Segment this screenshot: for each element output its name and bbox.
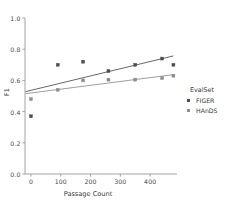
legend-title: EvalSet: [190, 86, 226, 94]
x-tick-label: 200: [85, 178, 97, 185]
data-points: [29, 57, 174, 118]
y-tick-label: 0.6: [10, 77, 20, 84]
legend-item-figer[interactable]: FIGER: [184, 97, 226, 104]
trend-lines: [26, 56, 174, 94]
y-axis-title: F1: [3, 88, 11, 96]
y-tick-label: 0.0: [10, 171, 20, 178]
y-tick-label: 0.8: [10, 46, 20, 53]
x-tick-label: 400: [144, 178, 156, 185]
x-tick-label: 100: [55, 178, 67, 185]
chart-legend: EvalSet FIGERHAnDS: [184, 86, 226, 117]
legend-item-label: HAnDS: [196, 107, 218, 114]
x-tick-label: 0: [29, 178, 33, 185]
y-tick-label: 0.4: [10, 108, 20, 115]
legend-marker-icon: [184, 109, 193, 112]
legend-entries: FIGERHAnDS: [184, 97, 226, 114]
legend-item-label: FIGER: [196, 97, 214, 104]
y-tick-label: 0.2: [10, 139, 20, 146]
x-axis-title: Passage Count: [64, 190, 113, 198]
legend-marker-icon: [184, 99, 193, 102]
legend-item-hands[interactable]: HAnDS: [184, 107, 226, 114]
x-tick-label: 300: [114, 178, 126, 185]
chart-figure: 0.00.20.40.60.81.0 0100200300400 Passage…: [0, 0, 226, 207]
y-tick-label: 1.0: [10, 15, 20, 22]
chart-axes: [22, 18, 177, 177]
